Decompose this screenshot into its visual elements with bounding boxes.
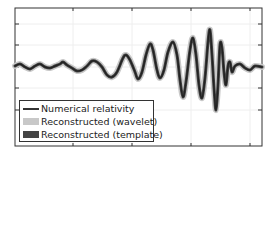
legend-label: Reconstructed (wavelet)	[41, 116, 157, 127]
legend-label: Numerical relativity	[41, 103, 134, 114]
light-band-swatch-icon	[23, 118, 39, 125]
dark-band-swatch-icon	[23, 131, 39, 138]
line-swatch-icon	[23, 108, 39, 110]
legend-item-template: Reconstructed (template)	[23, 128, 150, 141]
chart-legend: Numerical relativity Reconstructed (wave…	[19, 100, 154, 142]
legend-label: Reconstructed (template)	[41, 129, 163, 140]
legend-item-wavelet: Reconstructed (wavelet)	[23, 115, 150, 128]
legend-item-numerical-relativity: Numerical relativity	[23, 102, 150, 115]
